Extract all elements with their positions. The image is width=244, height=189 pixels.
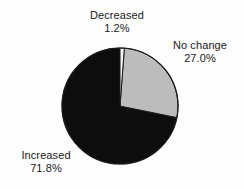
pie-chart-figure: Decreased 1.2% No change 27.0% Increased… xyxy=(0,0,244,189)
pie-label-no-change-percent: 27.0% xyxy=(160,52,240,65)
pie-label-decreased: Decreased 1.2% xyxy=(60,9,174,34)
pie-label-increased-percent: 71.8% xyxy=(8,162,84,175)
pie-label-decreased-percent: 1.2% xyxy=(60,22,174,35)
pie-label-no-change: No change 27.0% xyxy=(160,39,240,64)
pie-label-no-change-name: No change xyxy=(160,39,240,52)
pie-label-increased-name: Increased xyxy=(8,149,84,162)
pie-label-decreased-name: Decreased xyxy=(60,9,174,22)
pie-label-increased: Increased 71.8% xyxy=(8,149,84,174)
